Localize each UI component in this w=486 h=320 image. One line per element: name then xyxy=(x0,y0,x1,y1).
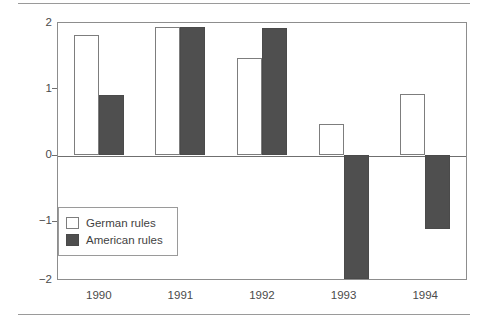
legend-item-german: German rules xyxy=(66,214,170,231)
bar-german-1993 xyxy=(319,124,344,155)
y-tick-label-2: 2 xyxy=(18,17,52,29)
zero-baseline xyxy=(58,156,466,157)
bar-american-1991 xyxy=(180,27,205,155)
legend-swatch-american-icon xyxy=(66,234,79,246)
y-tick-label-neg-1: −1 xyxy=(18,215,52,227)
bar-american-1992 xyxy=(262,28,287,155)
y-tick-label-neg-2: −2 xyxy=(18,274,52,286)
bar-german-1991 xyxy=(155,27,180,155)
bar-german-1992 xyxy=(237,58,262,155)
bar-american-1994 xyxy=(425,155,450,229)
top-rule xyxy=(18,3,470,4)
x-tick-label-1994: 1994 xyxy=(384,290,466,302)
bar-german-1994 xyxy=(400,94,425,155)
y-tick-label-1: 1 xyxy=(18,83,52,95)
x-tick-label-1990: 1990 xyxy=(58,290,140,302)
x-tick-label-1991: 1991 xyxy=(140,290,222,302)
y-axis: 2 1 0 −1 −2 xyxy=(0,0,52,320)
legend-item-american: American rules xyxy=(66,231,170,248)
legend-label-american: American rules xyxy=(86,234,163,246)
legend-swatch-german-icon xyxy=(66,217,79,229)
bar-american-1990 xyxy=(99,95,124,155)
x-tick-label-1992: 1992 xyxy=(221,290,303,302)
chart-legend: German rules American rules xyxy=(58,207,178,256)
bar-american-1993 xyxy=(344,155,369,279)
bottom-rule xyxy=(18,314,470,315)
legend-label-german: German rules xyxy=(86,217,156,229)
bar-chart-figure: 2 1 0 −1 −2 19901991199219931994 German … xyxy=(0,0,486,320)
y-tick-label-0: 0 xyxy=(18,149,52,161)
bar-german-1990 xyxy=(74,35,99,155)
x-tick-label-1993: 1993 xyxy=(303,290,385,302)
